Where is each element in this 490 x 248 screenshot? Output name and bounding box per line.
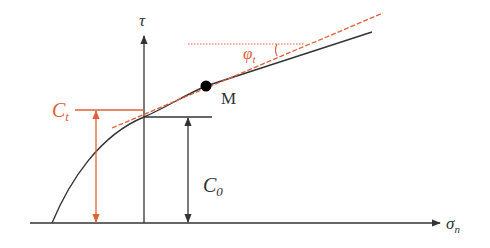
point-m-marker	[201, 81, 212, 92]
point-m-label: M	[221, 89, 236, 108]
sigma-n-axis-label: σn	[446, 214, 460, 235]
tau-axis-label: τ	[139, 11, 146, 30]
shear-strength-diagram: τ σn Ct C0 φt M	[0, 0, 490, 248]
phi-t-label: φt	[243, 44, 256, 65]
tangent-line	[112, 13, 383, 128]
phi-angle-arc	[276, 44, 278, 56]
c0-label: C0	[203, 174, 223, 199]
ct-label: Ct	[52, 99, 69, 124]
